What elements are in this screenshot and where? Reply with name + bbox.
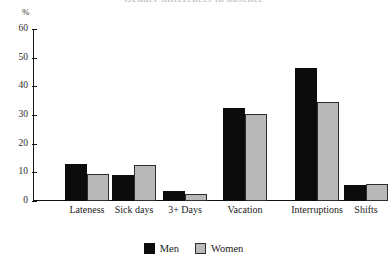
y-tick: 0: [32, 201, 37, 202]
y-tick-label: 20: [19, 139, 29, 149]
legend-item-men: Men: [144, 243, 179, 254]
bar-women-vacation: [245, 114, 267, 201]
bars-layer: [33, 29, 377, 201]
bar-men-shifts: [344, 185, 366, 201]
y-tick-label: 10: [19, 168, 29, 178]
bar-women-sick-days: [134, 165, 156, 201]
bar-men-interruptions: [295, 68, 317, 201]
category-label: Interruptions: [291, 203, 343, 216]
bar-women-lateness: [87, 174, 109, 201]
bar-group: [344, 29, 388, 201]
legend-label-men: Men: [160, 243, 179, 254]
bar-group: [163, 29, 207, 201]
plot-area: 0102030405060: [33, 29, 377, 201]
y-axis-unit-label: %: [22, 7, 30, 17]
bar-group: [295, 29, 339, 201]
legend-label-women: Women: [211, 243, 243, 254]
x-axis-category-labels: LatenessSick days3+ DaysVacationInterrup…: [33, 203, 385, 221]
bar-group: [65, 29, 109, 201]
legend-item-women: Women: [195, 243, 243, 254]
bar-women-shifts: [366, 184, 388, 201]
chart-title-cutoff: Gender differences in absence: [0, 0, 387, 3]
category-label: Shifts: [354, 203, 377, 216]
bar-women-interruptions: [317, 102, 339, 201]
bar-men-3-days: [163, 191, 185, 201]
y-tick-label: 30: [19, 110, 29, 120]
y-tick-label: 60: [19, 24, 29, 34]
y-tick-label: 0: [23, 196, 28, 206]
category-label: 3+ Days: [168, 203, 202, 216]
women-swatch-icon: [195, 243, 206, 254]
category-label: Lateness: [70, 203, 105, 216]
y-tick-label: 50: [19, 53, 29, 63]
category-label: Vacation: [228, 203, 263, 216]
bar-women-3-days: [185, 194, 207, 201]
y-tick-label: 40: [19, 82, 29, 92]
bar-men-lateness: [65, 164, 87, 201]
category-label: Sick days: [115, 203, 154, 216]
chart-legend: Men Women: [0, 243, 387, 254]
bar-men-sick-days: [112, 175, 134, 201]
bar-group: [112, 29, 156, 201]
bar-men-vacation: [223, 108, 245, 201]
bar-group: [223, 29, 267, 201]
men-swatch-icon: [144, 243, 155, 254]
